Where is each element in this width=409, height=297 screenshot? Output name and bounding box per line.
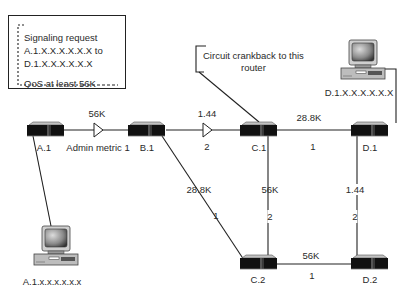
router-icon — [240, 255, 277, 269]
computer-icon — [34, 226, 78, 265]
link-b1-c1-metric: 2 — [204, 141, 209, 152]
signal-line-1: Signaling request — [24, 31, 103, 44]
link-c1-d1-metric: 1 — [310, 141, 315, 152]
host-label-a1: A.1.x.x.x.x.x.x — [23, 276, 82, 287]
callout-line-1: Circuit crankback to this — [203, 50, 304, 62]
router-label-d1: D.1 — [363, 142, 378, 153]
router-label-c1: C.1 — [252, 142, 267, 153]
triangle-icon — [94, 123, 103, 137]
router-icon — [351, 255, 388, 269]
link-c1-c2-metric: 2 — [267, 210, 272, 223]
link-b1-c2-metric: 1 — [213, 210, 218, 221]
link-a1-b1-bandwidth: 56K — [89, 108, 106, 119]
computer-icon — [341, 40, 385, 79]
triangle-icon — [203, 123, 212, 137]
link-b1-c2-bandwidth: 28.8K — [187, 184, 212, 195]
signal-line-2: A.1.X.X.X.X.X.X to — [24, 44, 103, 57]
link-c2-d2-bandwidth: 56K — [303, 250, 320, 261]
link-c1-c2-bandwidth: 56K — [262, 184, 279, 195]
link-c1-d1-bandwidth: 28.8K — [297, 112, 322, 123]
host-label-d1: D.1.X.X.X.X.X.X — [325, 87, 394, 98]
signal-line-4: QoS at least 56K — [24, 77, 103, 90]
link-b1-c1-bandwidth: 1.44 — [198, 108, 217, 119]
link-c2-d2-metric: 1 — [309, 270, 314, 281]
router-icon — [240, 122, 277, 136]
signal-line-3: D.1.X.X.X.X.X.X — [24, 57, 103, 70]
router-icon — [351, 122, 388, 136]
link-a1-b1-metric: Admin metric 1 — [66, 142, 129, 153]
router-icon — [128, 122, 165, 136]
router-icon — [27, 122, 64, 136]
router-label-a1: A.1 — [37, 142, 51, 153]
link-d1-d2-metric: 2 — [352, 210, 357, 223]
callout-line-2: router — [203, 62, 304, 74]
router-label-c2: C.2 — [251, 274, 266, 285]
router-label-d2: D.2 — [363, 274, 378, 285]
signaling-request-text: Signaling request A.1.X.X.X.X.X.X to D.1… — [24, 31, 103, 90]
router-label-b1: B.1 — [140, 142, 154, 153]
link-d1-d2-bandwidth: 1.44 — [346, 184, 365, 195]
crankback-callout: Circuit crankback to this router — [203, 50, 304, 74]
